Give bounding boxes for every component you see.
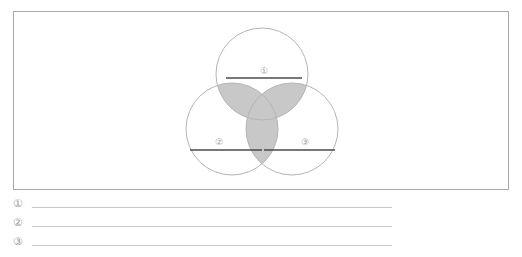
answer-input-line-2[interactable] <box>32 226 392 227</box>
answer-row-3: ③ <box>13 232 509 251</box>
answer-list: ① ② ③ <box>13 194 509 251</box>
answer-input-line-3[interactable] <box>32 245 392 246</box>
answer-row-1: ① <box>13 194 509 213</box>
answer-marker-3: ③ <box>13 236 29 247</box>
answer-marker-2: ② <box>13 217 29 228</box>
diagram-frame <box>13 11 509 190</box>
worksheet-page: ① ② ③ ① ② ③ <box>0 0 522 257</box>
answer-input-line-1[interactable] <box>32 207 392 208</box>
answer-marker-1: ① <box>13 198 29 209</box>
answer-row-2: ② <box>13 213 509 232</box>
